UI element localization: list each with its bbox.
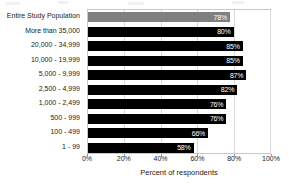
bar-row: 58%	[88, 143, 270, 153]
category-label: 1 - 99	[62, 143, 84, 150]
bar-value-label: 85%	[226, 57, 242, 64]
bar: 82%	[88, 85, 237, 95]
bar-row: 78%	[88, 12, 270, 22]
x-tick-mark	[197, 154, 198, 157]
category-label: 500 - 999	[50, 114, 84, 121]
bar: 76%	[88, 114, 226, 124]
bar-row: 85%	[88, 41, 270, 51]
x-tick-mark	[124, 154, 125, 157]
bar: 85%	[88, 41, 243, 51]
bar: 85%	[88, 56, 243, 66]
bar-value-label: 66%	[192, 130, 208, 137]
x-axis-tick-labels: 0%20%40%60%80%100%	[87, 155, 271, 165]
bar: 66%	[88, 128, 208, 138]
bar: 58%	[88, 143, 194, 153]
category-axis-labels: Entire Study PopulationMore than 35,0002…	[0, 9, 84, 154]
bar-value-label: 76%	[210, 115, 226, 122]
bar-row: 66%	[88, 128, 270, 138]
x-tick-mark	[271, 154, 272, 157]
bar-row: 76%	[88, 114, 270, 124]
gridline-100	[270, 10, 271, 153]
bar-value-label: 78%	[214, 14, 230, 21]
category-label: Entire Study Population	[7, 12, 84, 19]
artifact-mark	[232, 1, 244, 4]
category-label: 20,000 - 34,999	[31, 41, 84, 48]
x-tick-mark	[87, 154, 88, 157]
category-label: 100 - 499	[50, 128, 84, 135]
plot-area: 78%80%85%85%87%82%76%76%66%58%	[87, 9, 271, 154]
bar-value-label: 76%	[210, 101, 226, 108]
x-tick-mark	[161, 154, 162, 157]
bar-row: 76%	[88, 99, 270, 109]
category-label: 1,000 - 2,499	[39, 99, 84, 106]
x-axis-title: Percent of respondents	[87, 169, 271, 177]
bar-rows: 78%80%85%85%87%82%76%76%66%58%	[88, 10, 270, 153]
bar-value-label: 82%	[221, 86, 237, 93]
bar: 87%	[88, 70, 246, 80]
cropped-header-artifacts	[0, 0, 289, 8]
bar-value-label: 58%	[177, 144, 193, 151]
bar-row: 87%	[88, 70, 270, 80]
bar-value-label: 87%	[230, 72, 246, 79]
artifact-mark	[6, 2, 20, 5]
bar-value-label: 80%	[217, 28, 233, 35]
bar-row: 82%	[88, 85, 270, 95]
category-label: More than 35,000	[25, 27, 84, 34]
category-label: 2,500 - 4,999	[39, 85, 84, 92]
category-label: 10,000 - 19,999	[31, 56, 84, 63]
artifact-mark	[128, 2, 144, 5]
bar: 80%	[88, 27, 234, 37]
artifact-mark	[58, 1, 68, 4]
x-tick-mark	[234, 154, 235, 157]
bar: 76%	[88, 99, 226, 109]
bar: 78%	[88, 12, 230, 22]
bar-value-label: 85%	[226, 43, 242, 50]
bar-row: 80%	[88, 27, 270, 37]
bar-row: 85%	[88, 56, 270, 66]
bar-chart: Entire Study PopulationMore than 35,0002…	[0, 0, 289, 186]
category-label: 5,000 - 9,999	[39, 70, 84, 77]
